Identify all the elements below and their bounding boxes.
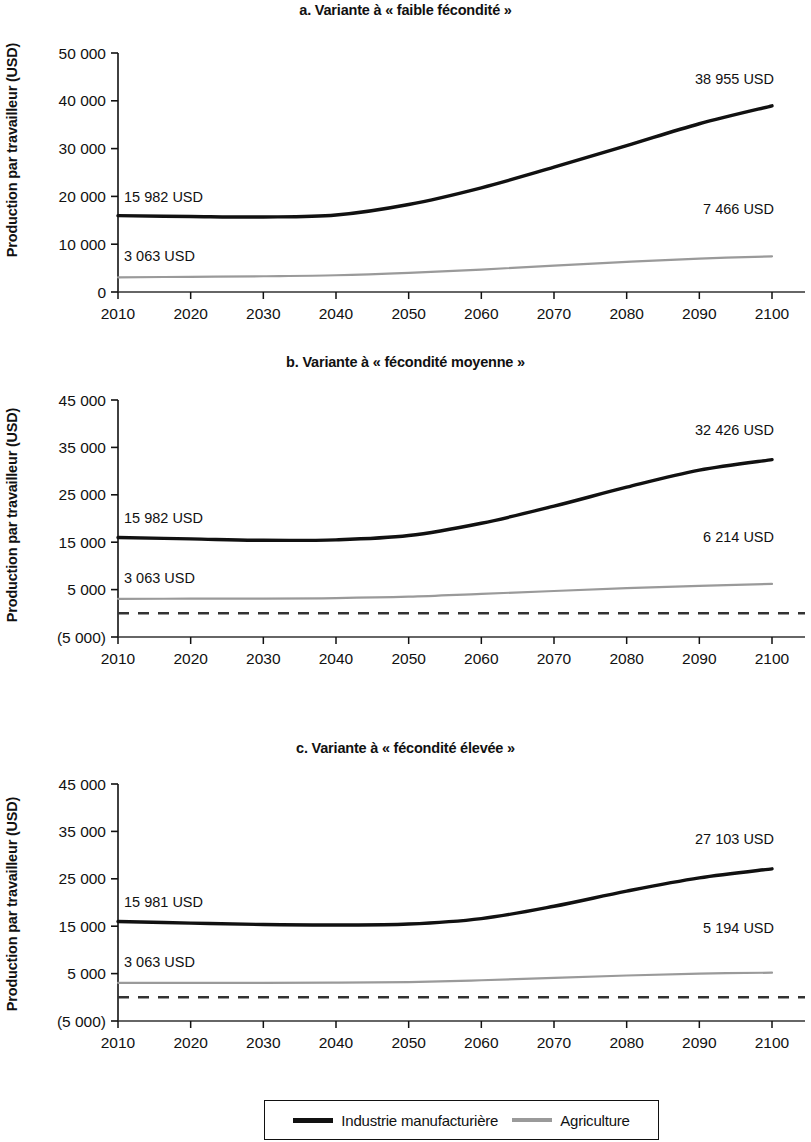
x-tick-label: 2010 [101, 305, 136, 322]
figure-legend: Industrie manufacturière Agriculture [264, 1100, 659, 1140]
series-line [118, 106, 772, 217]
x-tick-label: 2070 [537, 305, 572, 322]
x-tick-label: 2040 [319, 305, 354, 322]
y-tick-label: 15 000 [59, 534, 107, 551]
annotation-manufacturing-start: 15 981 USD [124, 894, 203, 910]
x-tick-label: 2090 [682, 305, 717, 322]
legend-swatch-manufacturing-icon [293, 1118, 333, 1123]
y-tick-label: 15 000 [59, 918, 107, 935]
x-tick-label: 2100 [755, 650, 790, 667]
annotation-agriculture-start: 3 063 USD [124, 570, 195, 586]
x-tick-label: 2080 [609, 305, 644, 322]
series-line [118, 584, 772, 599]
x-tick-label: 2060 [464, 305, 499, 322]
annotation-manufacturing-end: 38 955 USD [695, 71, 774, 87]
annotation-manufacturing-end: 32 426 USD [695, 422, 774, 438]
chart-panel-b: b. Variante à « fécondité moyenne » Prod… [0, 340, 811, 710]
x-tick-label: 2010 [101, 1034, 136, 1051]
y-tick-label: 40 000 [59, 92, 107, 109]
series-line [118, 973, 772, 983]
annotation-agriculture-start: 3 063 USD [124, 248, 195, 264]
annotation-agriculture-start: 3 063 USD [124, 954, 195, 970]
legend-label-agriculture: Agriculture [560, 1112, 630, 1129]
y-tick-label: 25 000 [59, 870, 107, 887]
y-tick-label: 5 000 [67, 965, 106, 982]
x-tick-label: 2030 [246, 650, 281, 667]
y-tick-label: 0 [97, 284, 106, 301]
y-tick-label: (5 000) [57, 629, 106, 646]
x-tick-label: 2040 [319, 1034, 354, 1051]
legend-item-agriculture: Agriculture [512, 1112, 630, 1129]
x-tick-label: 2090 [682, 1034, 717, 1051]
annotation-agriculture-end: 5 194 USD [703, 920, 774, 936]
annotation-manufacturing-start: 15 982 USD [124, 510, 203, 526]
y-tick-label: (5 000) [57, 1013, 106, 1030]
annotation-agriculture-end: 7 466 USD [703, 201, 774, 217]
annotation-manufacturing-start: 15 982 USD [124, 189, 203, 205]
x-tick-label: 2060 [464, 1034, 499, 1051]
x-tick-label: 2030 [246, 305, 281, 322]
y-tick-label: 30 000 [59, 140, 107, 157]
x-tick-label: 2070 [537, 650, 572, 667]
x-tick-label: 2050 [391, 1034, 426, 1051]
chart-panel-c: c. Variante à « fécondité élevée » Produ… [0, 710, 811, 1095]
x-tick-label: 2090 [682, 650, 717, 667]
x-tick-label: 2070 [537, 1034, 572, 1051]
chart-a-plot: 010 00020 00030 00040 00050 000201020202… [0, 0, 811, 340]
annotation-agriculture-end: 6 214 USD [703, 529, 774, 545]
x-tick-label: 2100 [755, 305, 790, 322]
chart-c-plot: (5 000)5 00015 00025 00035 00045 0002010… [0, 710, 811, 1095]
annotation-manufacturing-end: 27 103 USD [695, 831, 774, 847]
x-tick-label: 2020 [173, 1034, 208, 1051]
y-tick-label: 50 000 [59, 45, 107, 62]
x-tick-label: 2080 [609, 650, 644, 667]
series-line [118, 460, 772, 541]
y-tick-label: 10 000 [59, 236, 107, 253]
legend-label-manufacturing: Industrie manufacturière [341, 1112, 498, 1129]
x-tick-label: 2020 [173, 305, 208, 322]
x-tick-label: 2040 [319, 650, 354, 667]
x-tick-label: 2030 [246, 1034, 281, 1051]
x-tick-label: 2060 [464, 650, 499, 667]
legend-item-manufacturing: Industrie manufacturière [293, 1112, 498, 1129]
chart-panel-a: a. Variante à « faible fécondité » Produ… [0, 0, 811, 340]
y-tick-label: 45 000 [59, 776, 107, 793]
x-tick-label: 2050 [391, 650, 426, 667]
y-tick-label: 5 000 [67, 581, 106, 598]
x-tick-label: 2020 [173, 650, 208, 667]
x-tick-label: 2100 [755, 1034, 790, 1051]
legend-swatch-agriculture-icon [512, 1118, 552, 1122]
y-tick-label: 45 000 [59, 392, 107, 409]
series-line [118, 869, 772, 925]
x-tick-label: 2080 [609, 1034, 644, 1051]
x-tick-label: 2010 [101, 650, 136, 667]
chart-b-plot: (5 000)5 00015 00025 00035 00045 0002010… [0, 340, 811, 710]
x-tick-label: 2050 [391, 305, 426, 322]
y-tick-label: 35 000 [59, 823, 107, 840]
y-tick-label: 25 000 [59, 486, 107, 503]
y-tick-label: 20 000 [59, 188, 107, 205]
series-line [118, 256, 772, 277]
y-tick-label: 35 000 [59, 439, 107, 456]
figure-root: a. Variante à « faible fécondité » Produ… [0, 0, 811, 1142]
